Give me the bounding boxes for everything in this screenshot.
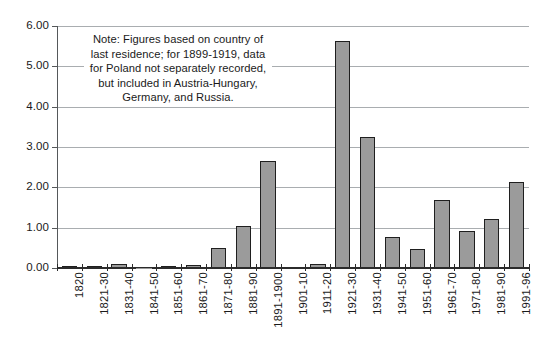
x-axis-tick: [281, 264, 282, 271]
bar[interactable]: [236, 226, 251, 268]
x-axis-tick: [529, 264, 530, 271]
x-axis-tick: [132, 264, 133, 271]
y-axis-tick: [52, 228, 58, 229]
y-axis-tick: [52, 187, 58, 188]
bar[interactable]: [360, 137, 375, 268]
x-axis-label: 1931-40: [372, 272, 383, 315]
bar[interactable]: [335, 41, 350, 268]
bar[interactable]: [410, 249, 425, 268]
x-axis-tick: [479, 264, 480, 271]
x-axis-label: 1861-70: [198, 272, 209, 315]
bar[interactable]: [434, 200, 449, 268]
y-axis-label: 6.00: [5, 20, 49, 32]
y-axis-label: 2.00: [5, 181, 49, 193]
x-axis-label: 1951-60: [422, 272, 433, 315]
x-axis-label: 1820: [74, 272, 85, 298]
gridline: [57, 228, 529, 229]
x-axis-tick: [430, 264, 431, 271]
x-axis-label: 1901-10: [298, 272, 309, 315]
x-axis-label: 1891-1900: [273, 272, 284, 328]
chart-note: Note: Figures based on country of last r…: [84, 30, 272, 107]
bar[interactable]: [484, 219, 499, 268]
x-axis-label: 1921-30: [347, 272, 358, 315]
x-axis-label: 1821-30: [99, 272, 110, 315]
x-axis-tick: [405, 264, 406, 271]
y-axis-labels: 6.005.004.003.002.001.000.00: [0, 0, 49, 350]
gridline: [57, 26, 529, 27]
x-axis-tick: [330, 264, 331, 271]
bar[interactable]: [260, 161, 275, 268]
y-axis-label: 3.00: [5, 141, 49, 153]
x-axis-tick: [454, 264, 455, 271]
x-axis-tick: [82, 264, 83, 271]
x-axis-tick: [305, 264, 306, 271]
x-axis-tick: [504, 264, 505, 271]
y-axis-tick: [52, 26, 58, 27]
x-axis-label: 1871-80: [223, 272, 234, 315]
x-axis-label: 1981-90: [496, 272, 507, 315]
x-axis-tick: [231, 264, 232, 271]
y-axis-tick: [52, 66, 58, 67]
y-axis-label: 4.00: [5, 101, 49, 113]
x-axis-tick: [206, 264, 207, 271]
y-axis-tick: [52, 107, 58, 108]
x-axis-tick: [107, 264, 108, 271]
gridline: [57, 268, 529, 269]
gridline: [57, 187, 529, 188]
x-axis-line: [57, 267, 530, 268]
x-axis-label: 1831-40: [124, 272, 135, 315]
x-axis-label: 1841-50: [149, 272, 160, 315]
bar-chart: 6.005.004.003.002.001.000.00 Note: Figur…: [0, 0, 543, 350]
y-axis-label: 1.00: [5, 222, 49, 234]
x-axis-tick: [355, 264, 356, 271]
y-axis-tick: [52, 147, 58, 148]
gridline: [57, 147, 529, 148]
bar[interactable]: [211, 248, 226, 268]
x-axis-tick: [57, 264, 58, 271]
x-axis-label: 1941-50: [397, 272, 408, 315]
x-axis-tick: [380, 264, 381, 271]
x-axis-label: 1851-60: [173, 272, 184, 315]
y-axis-label: 5.00: [5, 60, 49, 72]
x-axis-label: 1971-80: [471, 272, 482, 315]
x-axis-tick: [181, 264, 182, 271]
bar[interactable]: [509, 182, 524, 268]
y-axis-label: 0.00: [5, 262, 49, 274]
x-axis-tick: [156, 264, 157, 271]
x-axis-label: 1991-96: [521, 272, 532, 315]
x-axis-label: 1911-20: [322, 272, 333, 314]
x-axis-label: 1881-90: [248, 272, 259, 315]
x-axis-label: 1961-70: [447, 272, 458, 315]
bar[interactable]: [459, 231, 474, 268]
bar[interactable]: [385, 237, 400, 268]
x-axis-tick: [256, 264, 257, 271]
